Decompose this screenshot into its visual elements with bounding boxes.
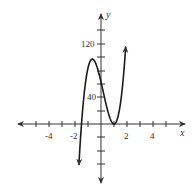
y-tick-label: 120: [81, 39, 95, 49]
x-tick-label: -4: [45, 131, 53, 141]
x-tick-label: 2: [124, 131, 129, 141]
cubic-function-graph: -4 -2 2 4 120 40 x y: [0, 0, 193, 190]
y-tick-label: 40: [87, 92, 97, 102]
x-axis-label: x: [179, 127, 185, 138]
function-curve: [79, 47, 126, 165]
x-tick-label: -2: [70, 131, 78, 141]
x-tick-label: 4: [150, 131, 155, 141]
y-axis-label: y: [105, 9, 111, 20]
